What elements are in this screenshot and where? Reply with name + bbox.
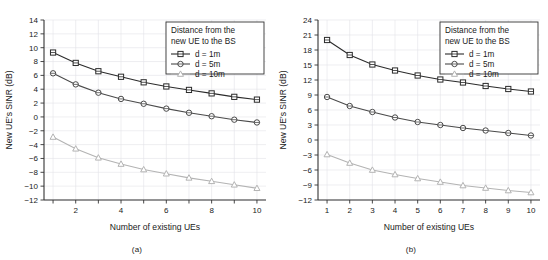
marker-square <box>460 80 465 85</box>
marker-circle <box>347 103 352 108</box>
marker-circle <box>209 114 214 119</box>
marker-square <box>483 83 488 88</box>
y-tick-label: 2 <box>34 99 39 108</box>
marker-circle <box>141 101 146 106</box>
legend-title-line2: new UE to the BS <box>445 37 510 46</box>
marker-circle <box>96 90 101 95</box>
y-tick-label: 12 <box>29 30 38 39</box>
y-tick-label: −12 <box>24 196 38 205</box>
y-tick-label: 6 <box>308 106 313 115</box>
x-tick-label: 10 <box>252 206 261 215</box>
marker-circle <box>73 82 78 87</box>
legend-title-line2: new UE to the BS <box>171 37 236 46</box>
y-tick-label: 3 <box>308 121 313 130</box>
y-tick-label: 6 <box>34 71 39 80</box>
marker-square <box>392 68 397 73</box>
marker-circle <box>438 122 443 127</box>
legend-title-line1: Distance from the <box>171 26 236 35</box>
marker-circle <box>452 61 457 66</box>
series-line-d-5m <box>53 73 257 122</box>
marker-triangle-icon <box>50 134 56 139</box>
marker-circle <box>460 125 465 130</box>
chart-panel-a: −12−10−8−6−4−202468101214246810Number of… <box>0 0 274 260</box>
y-tick-label: −9 <box>303 181 313 190</box>
panel-a-caption: (a) <box>0 245 274 254</box>
y-tick-label: 9 <box>308 91 313 100</box>
y-tick-label: −10 <box>24 182 38 191</box>
marker-square <box>232 94 237 99</box>
marker-circle <box>50 71 55 76</box>
y-axis-title: New UE's SINR (dB) <box>278 70 288 149</box>
marker-square <box>164 84 169 89</box>
marker-triangle <box>73 146 79 151</box>
y-tick-label: 8 <box>34 57 39 66</box>
marker-circle <box>483 128 488 133</box>
marker-circle <box>118 96 123 101</box>
x-axis-title: Number of existing UEs <box>384 222 474 232</box>
legend-entry-label: d = 5m <box>195 60 220 69</box>
marker-square <box>141 80 146 85</box>
panel-b-caption: (b) <box>274 245 548 254</box>
marker-square <box>73 60 78 65</box>
y-tick-label: 24 <box>303 16 312 25</box>
chart-b-canvas: −12−9−6−30369121518212412345678910Number… <box>274 0 548 260</box>
marker-square <box>415 73 420 78</box>
marker-circle <box>178 61 183 66</box>
marker-circle <box>324 94 329 99</box>
series-line-d-10m <box>327 155 531 193</box>
marker-circle <box>528 133 533 138</box>
y-axis-title: New UE's SINR (dB) <box>4 70 14 149</box>
y-tick-label: −2 <box>29 127 39 136</box>
legend-entry-label: d = 1m <box>195 50 220 59</box>
chart-panel-b: −12−9−6−30369121518212412345678910Number… <box>274 0 548 260</box>
marker-square <box>118 74 123 79</box>
marker-square <box>96 69 101 74</box>
marker-square <box>209 91 214 96</box>
marker-circle <box>186 110 191 115</box>
x-tick-label: 2 <box>347 206 352 215</box>
marker-square <box>438 77 443 82</box>
legend-entry-label: d = 10m <box>195 70 225 79</box>
x-tick-label: 1 <box>325 206 330 215</box>
marker-circle <box>506 130 511 135</box>
marker-square <box>186 87 191 92</box>
y-tick-label: −8 <box>29 168 39 177</box>
x-tick-label: 8 <box>483 206 488 215</box>
marker-square <box>324 37 329 42</box>
marker-square <box>528 89 533 94</box>
y-tick-label: 12 <box>303 76 312 85</box>
marker-circle <box>232 117 237 122</box>
y-tick-label: 14 <box>29 16 38 25</box>
marker-circle <box>415 119 420 124</box>
marker-circle <box>370 109 375 114</box>
marker-square <box>347 52 352 57</box>
figure-two-panel-sinr: −12−10−8−6−4−202468101214246810Number of… <box>0 0 548 260</box>
x-tick-label: 6 <box>438 206 443 215</box>
marker-square <box>50 50 55 55</box>
y-tick-label: −3 <box>303 151 313 160</box>
x-tick-label: 3 <box>370 206 375 215</box>
y-tick-label: 4 <box>34 85 39 94</box>
x-tick-label: 10 <box>526 206 535 215</box>
y-tick-label: 21 <box>303 31 312 40</box>
legend-entry-label: d = 1m <box>469 50 494 59</box>
marker-circle <box>392 115 397 120</box>
marker-triangle-icon <box>73 146 79 151</box>
marker-square <box>254 97 259 102</box>
y-tick-label: 0 <box>34 113 39 122</box>
x-tick-label: 5 <box>415 206 420 215</box>
x-tick-label: 2 <box>73 206 78 215</box>
series-line-d-5m <box>327 97 531 136</box>
x-tick-label: 8 <box>209 206 214 215</box>
x-tick-label: 9 <box>506 206 511 215</box>
marker-square <box>452 51 457 56</box>
marker-triangle <box>50 134 56 139</box>
legend: Distance from thenew UE to the BSd = 1md… <box>440 22 538 79</box>
marker-circle <box>254 120 259 125</box>
y-tick-label: 15 <box>303 61 312 70</box>
x-tick-label: 6 <box>164 206 169 215</box>
y-tick-label: −6 <box>29 154 39 163</box>
y-tick-label: 0 <box>308 136 313 145</box>
y-tick-label: −6 <box>303 166 313 175</box>
x-tick-label: 4 <box>393 206 398 215</box>
